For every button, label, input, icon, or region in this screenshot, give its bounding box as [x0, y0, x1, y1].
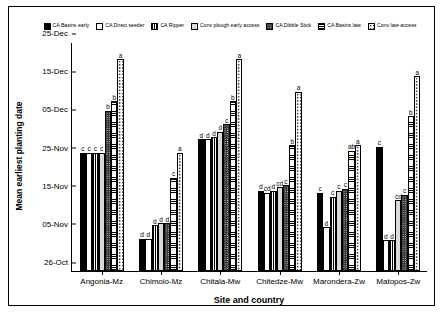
legend-swatch-icon: [151, 23, 158, 30]
legend-label: Conv plough early access: [200, 23, 259, 28]
x-axis-tick-label: Chitedze-Mw: [256, 277, 303, 286]
legend-item: CA Direct seeder: [96, 23, 144, 30]
bar-significance-label: c: [225, 118, 228, 125]
bar-significance-label: d: [147, 232, 151, 239]
legend-label: CA Basins late: [327, 23, 361, 28]
bar: a: [177, 153, 183, 271]
legend-item: CA Basins late: [318, 23, 361, 30]
bar-significance-label: b: [409, 110, 413, 117]
bar-group: dcddcdcbaChitedze-Mw: [250, 43, 309, 271]
bar-significance-label: c: [94, 146, 97, 153]
bar-significance-label: a: [415, 70, 419, 77]
bar-group: ccccbbaAngonia-Mz: [72, 43, 131, 271]
bar-significance-label: c: [337, 184, 340, 191]
y-axis-tick-label: 05-Nov: [42, 219, 72, 228]
bar-significance-label: d: [259, 184, 263, 191]
bar-significance-label: d: [325, 221, 329, 228]
bar-significance-label: d: [159, 217, 163, 224]
x-axis-tick-label: Chimoio-Mz: [140, 277, 183, 286]
legend-swatch-icon: [96, 23, 103, 30]
y-axis-tick-label: 26-Oct: [44, 258, 72, 267]
bar-significance-label: d: [140, 232, 144, 239]
chart-legend: CA Basins earlyCA Direct seederCA Ripper…: [31, 19, 429, 33]
bar-significance-label: c: [172, 171, 175, 178]
bar: a: [236, 59, 242, 271]
bar-significance-label: b: [112, 95, 116, 102]
bar-significance-label: d: [219, 125, 223, 132]
legend-label: CA Direct seeder: [105, 23, 144, 28]
bar-significance-label: b: [290, 139, 294, 146]
legend-label: CA Dibble Stick: [275, 23, 311, 28]
bar-significance-label: b: [106, 104, 110, 111]
bar: a: [117, 59, 123, 271]
legend-label: CA Ripper: [160, 23, 184, 28]
bar-significance-label: d: [153, 219, 157, 226]
bar: a: [295, 92, 301, 271]
bar-significance-label: a: [297, 85, 301, 92]
legend-swatch-icon: [368, 23, 375, 30]
bar-significance-label: a: [237, 53, 241, 60]
legend-swatch-icon: [318, 23, 325, 30]
legend-label: Conv late access: [377, 23, 417, 28]
bar-group: ddddcbaChitala-Mw: [191, 43, 250, 271]
bar: a: [355, 145, 361, 271]
x-axis-tick-label: Matopos-Zw: [376, 277, 420, 286]
legend-swatch-icon: [266, 23, 273, 30]
bar-group: dddddcaChimoio-Mz: [131, 43, 190, 271]
legend-item: Conv late access: [368, 23, 417, 30]
y-axis-tick-mark: [72, 33, 76, 34]
bar-significance-label: c: [331, 190, 334, 197]
bar-significance-label: a: [178, 146, 182, 153]
plot-area: 26-Oct05-Nov15-Nov25-Nov05-Dec15-Dec25-D…: [71, 43, 427, 272]
bar-significance-label: c: [87, 146, 90, 153]
chart-container: CA Basins earlyCA Direct seederCA Ripper…: [0, 0, 443, 315]
legend-item: Conv plough early access: [191, 23, 259, 30]
bar: a: [414, 76, 420, 271]
chart-panel: CA Basins earlyCA Direct seederCA Ripper…: [8, 6, 435, 306]
x-axis-tick-mark: [102, 271, 103, 275]
bar-significance-label: c: [100, 146, 103, 153]
bar-significance-label: a: [356, 139, 360, 146]
bar-significance-label: d: [390, 234, 394, 241]
y-axis-tick-label: 25-Nov: [42, 143, 72, 152]
x-axis-tick-mark: [220, 271, 221, 275]
legend-swatch-icon: [191, 23, 198, 30]
bar-significance-label: a: [119, 53, 123, 60]
x-axis-tick-mark: [398, 271, 399, 275]
bar-significance-label: c: [284, 179, 287, 186]
bar-significance-label: d: [212, 131, 216, 138]
x-axis-tick-mark: [280, 271, 281, 275]
x-axis-label: Site and country: [71, 295, 427, 305]
y-axis-tick-label: 15-Nov: [42, 181, 72, 190]
y-axis-tick-label: 15-Dec: [42, 67, 72, 76]
y-axis-tick-label: 05-Dec: [42, 105, 72, 114]
bar-significance-label: d: [384, 234, 388, 241]
legend-item: CA Ripper: [151, 23, 184, 30]
bar-significance-label: c: [81, 146, 84, 153]
bar-significance-label: c: [344, 182, 347, 189]
bar-significance-label: c: [318, 186, 321, 193]
bar-significance-label: d: [272, 184, 276, 191]
bar-significance-label: d: [206, 133, 210, 140]
x-axis-tick-label: Angonia-Mz: [80, 277, 123, 286]
bar-significance-label: c: [403, 188, 406, 195]
x-axis-tick-mark: [339, 271, 340, 275]
x-axis-tick-label: Marondera-Zw: [313, 277, 365, 286]
y-axis-label: Mean earliest planting date: [14, 101, 24, 210]
y-axis-tick-label: 25-Dec: [42, 29, 72, 38]
x-axis-tick-label: Chitala-Mw: [200, 277, 240, 286]
x-axis-tick-mark: [161, 271, 162, 275]
bar-group: cdcccabaMarondera-Zw: [309, 43, 368, 271]
bar-significance-label: b: [231, 95, 235, 102]
bar-significance-label: d: [165, 217, 169, 224]
bar-group: cddcdcbaMatopos-Zw: [369, 43, 428, 271]
bar-significance-label: c: [378, 140, 381, 147]
plot-inner: 26-Oct05-Nov15-Nov25-Nov05-Dec15-Dec25-D…: [72, 43, 427, 271]
bar-significance-label: d: [200, 133, 204, 140]
legend-item: CA Dibble Stick: [266, 23, 311, 30]
